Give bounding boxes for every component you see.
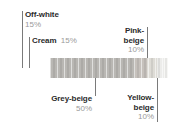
callout-yellow-beige: Yellow- beige 10% — [110, 93, 154, 122]
callout-label-pink-beige-line1: Pink- — [112, 26, 144, 36]
callout-label-yellow-beige-line2: beige — [110, 103, 154, 113]
leader-line-off-white — [22, 11, 23, 68]
leader-line-yellow-beige — [157, 74, 158, 122]
callout-grey-beige: Grey-beige 50% — [33, 94, 92, 113]
callout-label-yellow-beige-line1: Yellow- — [110, 93, 154, 103]
leader-line-cream — [29, 37, 30, 68]
callout-label-grey-beige: Grey-beige — [33, 94, 92, 104]
callout-percent-grey-beige: 50% — [33, 104, 92, 114]
callout-percent-yellow-beige: 10% — [110, 112, 154, 122]
leader-line-pink-beige — [147, 27, 148, 59]
callout-off-white: Off-white 15% — [25, 10, 59, 29]
palette-proportion-figure: Off-white 15% Cream 15% Pink- beige 10% … — [0, 0, 171, 127]
callout-percent-pink-beige: 10% — [112, 45, 144, 55]
callout-percent-cream: 15% — [59, 36, 77, 45]
bar-stripe-texture — [50, 58, 168, 78]
callout-pink-beige: Pink- beige 10% — [112, 26, 144, 55]
callout-label-pink-beige-line2: beige — [112, 36, 144, 46]
callout-percent-off-white: 15% — [25, 20, 59, 30]
callout-cream: Cream 15% — [32, 36, 77, 46]
callout-label-cream: Cream — [32, 36, 56, 45]
callout-label-off-white: Off-white — [25, 10, 59, 20]
palette-bar — [50, 58, 168, 78]
